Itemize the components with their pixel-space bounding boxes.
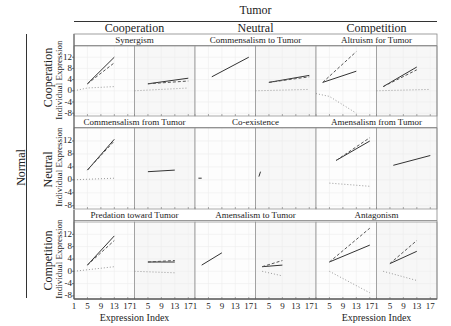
panel-0-1-right — [256, 46, 317, 116]
panel-0-2-right — [377, 46, 438, 116]
panel-2-0-right — [135, 222, 196, 299]
panel-1-1-left — [195, 128, 256, 209]
panel-1-0-left — [74, 128, 135, 209]
x-tick-label: 9 — [396, 302, 410, 311]
x-tick-label: 13 — [168, 302, 182, 311]
panel-0-0-right — [135, 46, 196, 116]
x-tick-label: 13 — [410, 302, 424, 311]
x-tick-label: 1 — [309, 302, 323, 311]
panel-2-2-left — [316, 222, 377, 299]
x-tick-label: 13 — [289, 302, 303, 311]
x-tick-label: 17 — [423, 302, 437, 311]
x-tick-label: 9 — [154, 302, 168, 311]
panel-2-1-right — [256, 222, 317, 299]
plot-grid — [0, 0, 451, 326]
x-tick-label: 1 — [188, 302, 202, 311]
x-tick-label: 1 — [370, 302, 384, 311]
x-tick-label: 5 — [383, 302, 397, 311]
x-tick-label: 9 — [275, 302, 289, 311]
panel-1-1-right — [256, 128, 317, 209]
x-tick-label: 5 — [80, 302, 94, 311]
x-axis-label-col1: Expression Index — [74, 312, 195, 323]
panel-2-0-left — [74, 222, 135, 299]
panel-1-2-right — [377, 128, 438, 209]
x-tick-label: 9 — [94, 302, 108, 311]
x-axis-label-col3: Expression Index — [316, 312, 437, 323]
x-tick-label: 1 — [249, 302, 263, 311]
x-tick-label: 9 — [215, 302, 229, 311]
x-tick-label: 5 — [141, 302, 155, 311]
x-tick-label: 13 — [107, 302, 121, 311]
x-tick-label: 5 — [201, 302, 215, 311]
x-tick-label: 1 — [67, 302, 81, 311]
panel-0-0-left — [74, 46, 135, 116]
panel-1-2-left — [316, 128, 377, 209]
x-tick-label: 13 — [228, 302, 242, 311]
panel-0-1-left — [195, 46, 256, 116]
x-tick-label: 9 — [336, 302, 350, 311]
panel-1-0-right — [135, 128, 196, 209]
panel-0-2-left — [316, 46, 377, 116]
panel-2-2-right — [377, 222, 438, 299]
panel-2-1-left — [195, 222, 256, 299]
x-tick-label: 5 — [262, 302, 276, 311]
x-tick-label: 1 — [128, 302, 142, 311]
x-tick-label: 5 — [322, 302, 336, 311]
x-tick-label: 13 — [349, 302, 363, 311]
